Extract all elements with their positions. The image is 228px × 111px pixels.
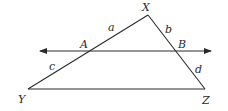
side-xy [28, 15, 148, 89]
point-label-b: B [177, 38, 186, 51]
triangle-diagram: X Y Z A B a b c d [0, 0, 228, 111]
vertex-label-y: Y [18, 93, 27, 106]
segment-label-b: b [165, 23, 172, 36]
side-xz [148, 15, 205, 89]
segment-label-c: c [49, 60, 55, 73]
point-label-a: A [79, 38, 88, 51]
segment-label-d: d [195, 63, 202, 76]
vertex-label-x: X [141, 1, 151, 14]
segment-label-a: a [108, 21, 115, 34]
vertex-label-z: Z [201, 94, 210, 107]
